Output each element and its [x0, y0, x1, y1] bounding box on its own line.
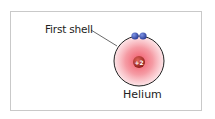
leader-line — [91, 30, 117, 46]
electron — [131, 32, 138, 39]
shell-label: First shell — [45, 23, 93, 35]
nucleus-charge: +2 — [134, 59, 143, 66]
electron — [139, 32, 146, 39]
helium-atom-diagram: +2 — [0, 0, 215, 119]
atom-name: Helium — [123, 88, 162, 101]
